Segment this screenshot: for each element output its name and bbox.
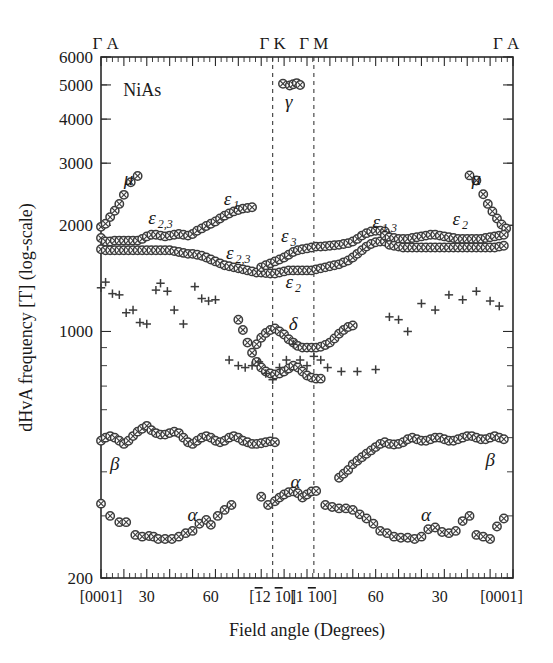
data-point-circle-x: [243, 338, 251, 346]
figure-root: 600050004000300020001000200[0001]3060[12…: [0, 0, 553, 663]
x-axis-top-label: Γ K: [259, 34, 286, 53]
data-point-circle-x: [234, 315, 242, 323]
data-point-circle-x: [296, 81, 304, 89]
data-point-plus: [101, 278, 109, 286]
branch-label-beta-l: β: [109, 453, 120, 474]
branch-label-alpha-m: α: [291, 471, 302, 492]
data-point-circle-x: [500, 514, 508, 522]
data-point-circle-x: [317, 374, 325, 382]
data-point-circle-x: [214, 512, 222, 520]
data-point-plus: [353, 367, 361, 375]
data-point-circle-x: [115, 200, 123, 208]
branch-label-eps-2-r: ε2: [453, 208, 469, 232]
x-axis-top-label: Γ A: [493, 34, 520, 53]
data-point-plus: [417, 299, 425, 307]
data-point-plus: [404, 327, 412, 335]
dhva-frequency-scatter-plot: 600050004000300020001000200[0001]3060[12…: [0, 0, 553, 663]
branch-label-gamma: γ: [285, 91, 293, 112]
data-point-circle-x: [271, 438, 279, 446]
data-point-plus: [108, 289, 116, 297]
data-point-circle-x: [312, 487, 320, 495]
y-axis-tick-label: 3000: [59, 154, 93, 173]
data-point-plus: [445, 291, 453, 299]
branch-label-eps-3: ε3: [281, 225, 297, 249]
data-point-circle-x: [133, 172, 141, 180]
data-point-plus: [394, 315, 402, 323]
y-axis-tick-label: 4000: [59, 110, 93, 129]
data-point-plus: [472, 287, 480, 295]
data-point-circle-x: [349, 321, 357, 329]
data-point-plus: [323, 363, 331, 371]
data-point-plus: [170, 306, 178, 314]
x-axis-tick-label: [0001]: [80, 588, 123, 605]
y-axis-tick-label: 6000: [59, 48, 93, 67]
data-point-plus: [143, 320, 151, 328]
data-point-plus: [241, 363, 249, 371]
data-point-circle-x: [122, 518, 130, 526]
y-axis-tick-label: 1000: [59, 322, 93, 341]
data-point-circle-x: [500, 242, 508, 250]
data-point-circle-x: [227, 501, 235, 509]
data-point-circle-x: [207, 521, 215, 529]
plot-frame: [101, 57, 513, 578]
branch-label-eps-23-b: ε2,3: [226, 242, 251, 266]
data-point-circle-x: [465, 512, 473, 520]
data-point-plus: [156, 279, 164, 287]
data-point-circle-x: [97, 499, 105, 507]
data-point-plus: [385, 313, 393, 321]
branch-label-alpha-r: α: [421, 504, 432, 525]
data-point-circle-x: [188, 527, 196, 535]
sample-label: NiAs: [123, 80, 161, 100]
data-point-plus: [337, 367, 345, 375]
x-axis-tick-label: 60: [203, 588, 219, 605]
x-axis-tick-label: 30: [432, 588, 448, 605]
branch-label-beta-r: β: [484, 449, 495, 470]
data-point-circle-x: [257, 493, 265, 501]
data-point-plus: [458, 296, 466, 304]
branch-label-mu-left: μ: [123, 168, 134, 189]
data-point-plus: [431, 306, 439, 314]
y-axis-tick-label: 200: [68, 569, 94, 588]
data-point-plus: [211, 296, 219, 304]
data-point-circle-x: [106, 512, 114, 520]
x-axis-top-label: Γ M: [299, 34, 328, 53]
data-point-plus: [486, 297, 494, 305]
branch-label-delta: δ: [289, 313, 299, 334]
y-axis-tick-label: 5000: [59, 76, 93, 95]
data-point-plus: [495, 302, 503, 310]
data-point-circle-x: [248, 349, 256, 357]
x-axis-tick-label: [1 100]: [291, 588, 338, 605]
data-point-circle-x: [500, 231, 508, 239]
data-point-plus: [152, 286, 160, 294]
data-point-plus: [225, 356, 233, 364]
data-point-circle-x: [239, 326, 247, 334]
data-point-plus: [97, 284, 105, 292]
x-axis-tick-label: 60: [368, 588, 384, 605]
data-point-circle-x: [120, 191, 128, 199]
data-point-circle-x: [417, 532, 425, 540]
data-point-circle-x: [500, 435, 508, 443]
data-point-plus: [115, 291, 123, 299]
data-point-circle-x: [452, 527, 460, 535]
data-point-circle-x: [486, 535, 494, 543]
data-point-circle-x: [493, 522, 501, 530]
x-axis-tick-label: [0001]: [480, 588, 523, 605]
data-point-plus: [163, 287, 171, 295]
data-point-plus: [136, 318, 144, 326]
branch-label-eps-13: ε1,3: [373, 211, 398, 235]
data-point-circle-x: [248, 203, 256, 211]
data-point-plus: [234, 361, 242, 369]
data-point-plus: [371, 365, 379, 373]
data-point-circle-x: [369, 520, 377, 528]
data-point-plus: [191, 282, 199, 290]
y-axis-title: dHvA frequency [T] (log-scale): [16, 203, 37, 431]
branch-label-eps-23-a: ε2,3: [148, 207, 173, 231]
x-axis-top-label: Γ A: [92, 34, 119, 53]
x-axis-tick-label: 30: [139, 588, 155, 605]
data-point-circle-x: [479, 190, 487, 198]
x-axis-title: Field angle (Degrees): [229, 620, 385, 641]
x-axis-tick-label: [12 10]: [249, 588, 296, 605]
y-axis-tick-label: 2000: [59, 216, 93, 235]
branch-label-mu-right: μ: [471, 168, 482, 189]
data-point-plus: [179, 320, 187, 328]
